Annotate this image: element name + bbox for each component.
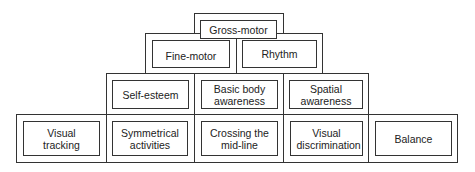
self-esteem-box: Self-esteem	[112, 80, 189, 109]
gross-motor-box: Gross-motor	[200, 20, 277, 39]
fine-motor-box: Fine-motor	[152, 40, 230, 68]
tier-3-divider-1	[194, 73, 195, 115]
tier-4-divider-4	[368, 114, 369, 163]
symmetrical-activities-box: Symmetrical activities	[112, 121, 188, 156]
tier-1-right-edge	[283, 13, 284, 34]
tier-4-divider-2	[194, 114, 195, 163]
symmetrical-activities-label: Symmetrical activities	[120, 127, 180, 151]
rhythm-label: Rhythm	[261, 48, 297, 60]
balance-box: Balance	[375, 121, 452, 156]
crossing-the-mid-line-box: Crossing the mid-line	[201, 121, 278, 156]
tier-4-divider-1	[106, 114, 107, 163]
gross-motor-label: Gross-motor	[209, 24, 267, 36]
visual-tracking-box: Visual tracking	[23, 121, 100, 156]
tier-3-divider-2	[283, 73, 284, 115]
visual-discrimination-box: Visual discrimination	[290, 121, 363, 156]
crossing-the-mid-line-label: Crossing the mid-line	[209, 127, 271, 151]
tier-2-divider	[236, 38, 237, 74]
rhythm-box: Rhythm	[242, 40, 317, 68]
fine-motor-label: Fine-motor	[166, 50, 217, 62]
tier-1-left-edge	[194, 13, 195, 34]
tier-1-top-edge	[194, 13, 284, 14]
basic-body-awareness-box: Basic body awareness	[201, 80, 278, 109]
spatial-awareness-box: Spatial awareness	[289, 80, 363, 109]
basic-body-awareness-label: Basic body awareness	[210, 83, 270, 107]
balance-label: Balance	[395, 133, 433, 145]
self-esteem-label: Self-esteem	[122, 89, 178, 101]
tier-4-divider-3	[283, 114, 284, 163]
visual-tracking-label: Visual tracking	[39, 127, 84, 151]
visual-discrimination-label: Visual discrimination	[297, 127, 357, 151]
spatial-awareness-label: Spatial awareness	[299, 83, 354, 107]
